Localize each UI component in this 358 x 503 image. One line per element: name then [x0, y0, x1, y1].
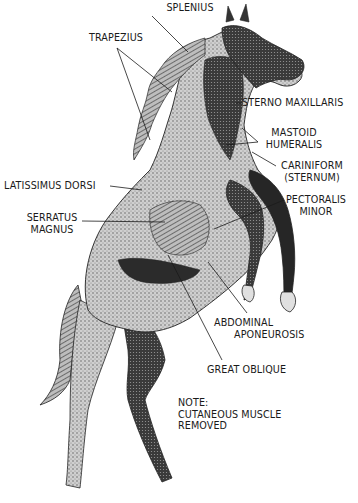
label-trapezius: TRAPEZIUS	[80, 32, 152, 44]
label-serratus-magnus: SERRATUS MAGNUS	[20, 212, 84, 235]
label-abdominal-aponeurosis-line2: APONEUROSIS	[214, 329, 305, 341]
label-cariniform-line1: CARINIFORM	[276, 160, 348, 172]
label-serratus-magnus-line2: MAGNUS	[20, 224, 84, 236]
label-latissimus-dorsi: LATISSIMUS DORSI	[4, 180, 96, 192]
label-abdominal-aponeurosis-line1: ABDOMINAL	[214, 317, 305, 329]
label-pectoralis-minor-line2: MINOR	[280, 206, 352, 218]
label-pectoralis-minor-line1: PECTORALIS	[280, 194, 352, 206]
note-line3: REMOVED	[178, 420, 281, 432]
label-serratus-magnus-line1: SERRATUS	[20, 212, 84, 224]
label-cariniform-line2: (STERNUM)	[276, 172, 348, 184]
note-line2: CUTANEOUS MUSCLE	[178, 409, 281, 421]
front-hoof-2	[280, 292, 295, 312]
label-mastoid-humeralis-line1: MASTOID	[262, 127, 326, 139]
label-pectoralis-minor: PECTORALIS MINOR	[280, 194, 352, 217]
label-mastoid-humeralis: MASTOID HUMERALIS	[262, 127, 326, 150]
note: NOTE: CUTANEOUS MUSCLE REMOVED	[178, 397, 281, 432]
label-splenius: SPLENIUS	[150, 2, 230, 14]
horse-muscle-diagram: SPLENIUS TRAPEZIUS STERNO MAXILLARIS MAS…	[0, 0, 358, 503]
label-great-oblique: GREAT OBLIQUE	[207, 364, 286, 376]
label-cariniform: CARINIFORM (STERNUM)	[276, 160, 348, 183]
label-sterno-maxillaris: STERNO MAXILLARIS	[242, 97, 343, 109]
label-mastoid-humeralis-line2: HUMERALIS	[262, 139, 326, 151]
note-line1: NOTE:	[178, 397, 281, 409]
label-abdominal-aponeurosis: ABDOMINAL APONEUROSIS	[214, 317, 305, 340]
